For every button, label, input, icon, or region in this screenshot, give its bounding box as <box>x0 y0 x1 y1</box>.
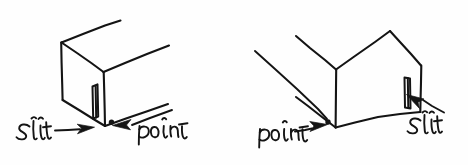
left-slit-leader <box>55 124 95 134</box>
right-box-bottom-right-edge <box>336 112 421 128</box>
right-label-slit <box>408 111 443 133</box>
figure-root: slit point point slit <box>0 0 468 165</box>
left-box-top-right-edge <box>104 46 170 73</box>
right-box-top-back-edge <box>296 36 336 70</box>
left-label-point <box>139 118 188 145</box>
left-point-marker <box>109 120 114 125</box>
right-slit-inner-line <box>408 78 409 108</box>
left-box-left-vertical-edge <box>61 43 62 101</box>
left-slit-leader-line <box>55 129 80 130</box>
right-point-ray <box>255 51 327 119</box>
left-box-top-front-edge <box>62 43 104 73</box>
right-box-top-right-edge <box>390 31 421 66</box>
right-box-right-vertical-edge <box>420 66 421 113</box>
right-label-point <box>259 121 308 148</box>
left-box-front-vertical-edge <box>104 72 105 126</box>
left-box-diagram <box>17 21 188 145</box>
left-point-leader-line <box>132 110 172 125</box>
left-slit <box>93 84 99 118</box>
left-slit-inner-line <box>96 86 97 117</box>
sketch-canvas <box>0 0 468 165</box>
right-slit-leader <box>407 95 445 113</box>
right-box-top-left-edge <box>336 31 390 70</box>
right-point-arrowhead <box>310 122 328 132</box>
right-box-diagram <box>255 31 444 148</box>
right-slit <box>405 78 411 109</box>
left-box-top-back-edge <box>62 21 121 43</box>
left-label-slit <box>17 117 52 139</box>
right-point-marker <box>325 119 330 124</box>
right-box-front-vertical-edge <box>336 70 337 128</box>
